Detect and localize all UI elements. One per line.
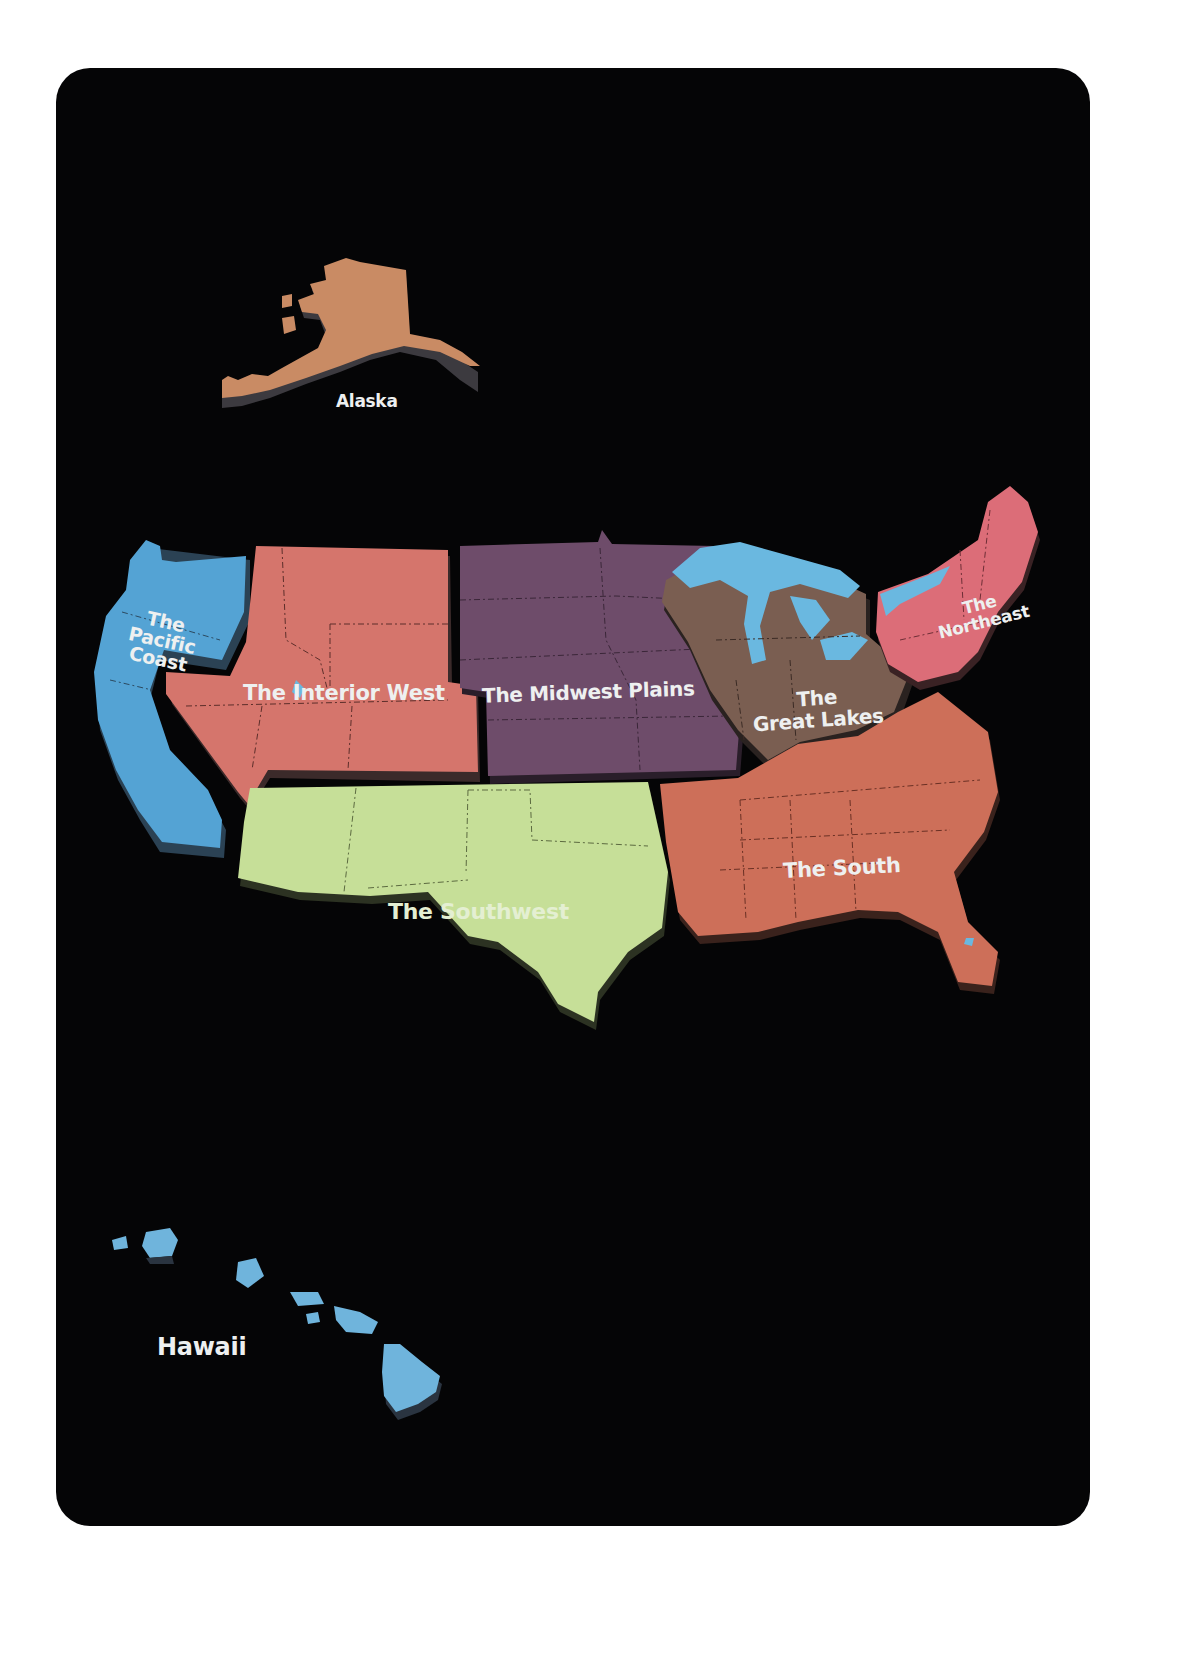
us-regions-map <box>0 0 1203 1671</box>
region-alaska[interactable] <box>222 258 480 408</box>
label-great-lakes: The Great Lakes <box>751 682 885 735</box>
label-alaska: Alaska <box>336 393 398 410</box>
label-interior-west: The Interior West <box>243 683 445 704</box>
label-hawaii: Hawaii <box>157 1335 246 1359</box>
label-southwest: The Southwest <box>388 901 569 923</box>
region-hawaii[interactable] <box>112 1228 442 1420</box>
